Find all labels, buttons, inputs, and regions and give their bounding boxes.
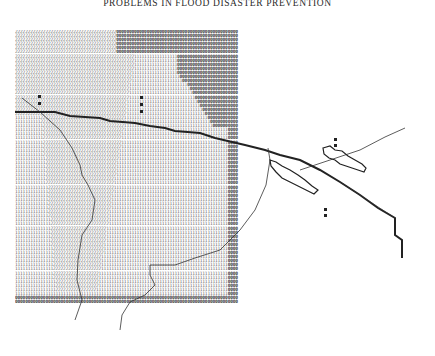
tributary-line [300, 128, 405, 170]
river-channel-line [15, 112, 402, 258]
marker-squares [38, 95, 337, 217]
right-boundary-line [340, 182, 395, 218]
boundary-line-central [120, 148, 270, 330]
boundary-line-west [22, 98, 95, 320]
map-overlay-lines [0, 0, 435, 356]
